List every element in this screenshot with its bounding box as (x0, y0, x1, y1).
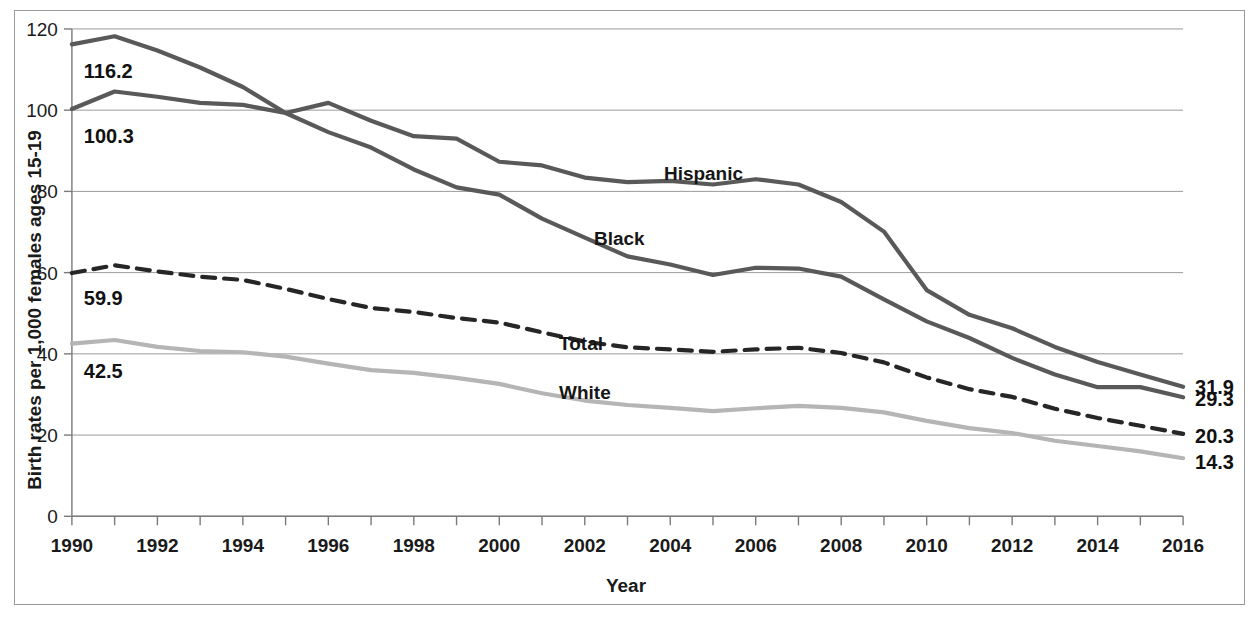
x-tick-label: 2000 (478, 535, 520, 556)
x-tick-label: 1994 (222, 535, 265, 556)
series-label-white: White (559, 382, 611, 403)
series-label-black: Black (594, 228, 645, 249)
x-axis-tick-labels: 1990199219941996199820002002200420062008… (51, 535, 1204, 556)
start-value-label-white: 42.5 (84, 360, 123, 382)
x-tick-label: 2002 (564, 535, 606, 556)
series-label-hispanic: Hispanic (664, 163, 743, 184)
x-tick-label: 2008 (820, 535, 862, 556)
x-tick-label: 2010 (906, 535, 948, 556)
end-value-label-hispanic: 31.9 (1195, 376, 1234, 398)
y-tick-label: 0 (47, 506, 58, 527)
y-tick-label: 100 (26, 100, 58, 121)
end-value-label-total: 20.3 (1195, 425, 1234, 447)
x-tick-label: 1996 (307, 535, 349, 556)
x-axis-title: Year (606, 575, 647, 596)
y-tick-label: 120 (26, 19, 58, 40)
line-chart: 020406080100120 199019921994199619982000… (15, 11, 1244, 604)
x-tick-label: 1992 (136, 535, 178, 556)
x-tick-label: 2016 (1162, 535, 1204, 556)
series-label-total: Total (559, 333, 603, 354)
series-line-total (72, 265, 1183, 434)
gridlines (72, 29, 1183, 516)
start-value-labels: 116.2100.359.942.5 (84, 60, 134, 381)
end-value-label-white: 14.3 (1195, 451, 1234, 473)
series-inline-labels: BlackHispanicTotalWhite (559, 163, 743, 402)
x-tick-label: 2006 (735, 535, 777, 556)
end-value-labels: 29.331.920.314.3 (1195, 376, 1234, 473)
y-axis-title: Birth rates per 1,000 females ages 15-19 (24, 130, 45, 490)
x-tick-label: 1990 (51, 535, 93, 556)
chart-figure: 020406080100120 199019921994199619982000… (14, 10, 1245, 605)
start-value-label-total: 59.9 (84, 287, 123, 309)
series-line-black (72, 36, 1183, 397)
x-tick-label: 2004 (649, 535, 692, 556)
x-tick-label: 1998 (393, 535, 435, 556)
x-tick-label: 2014 (1077, 535, 1120, 556)
start-value-label-black: 116.2 (84, 60, 133, 82)
x-tick-label: 2012 (991, 535, 1033, 556)
start-value-label-hispanic: 100.3 (84, 125, 134, 147)
